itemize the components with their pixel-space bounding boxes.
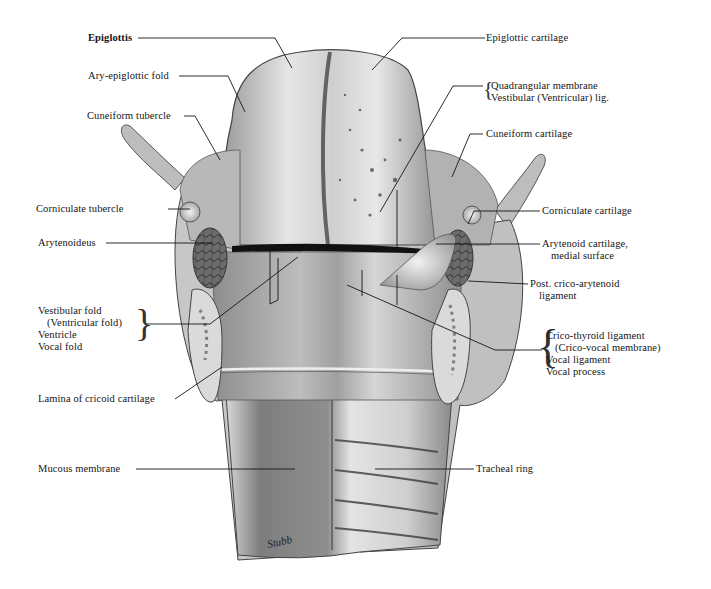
- label-arytenoid-cartilage: Arytenoid cartilage, medial surface: [542, 238, 628, 262]
- label-vestibular-fold-group: Vestibular fold (Ventricular fold) Ventr…: [38, 305, 122, 353]
- trachea: [226, 395, 452, 558]
- label-mucous-membrane: Mucous membrane: [38, 463, 120, 475]
- label-post-crico-arytenoid: Post. crico-arytenoid ligament: [530, 278, 620, 302]
- right-superior-horn: [495, 154, 545, 228]
- epiglottis: [223, 50, 442, 245]
- label-cuneiform-cartilage: Cuneiform cartilage: [486, 128, 572, 140]
- label-ary-epiglottic-fold: Ary-epiglottic fold: [88, 70, 169, 82]
- label-cuneiform-tubercle: Cuneiform tubercle: [87, 110, 171, 122]
- arytenoideus-muscle: [193, 228, 227, 288]
- left-superior-horn: [121, 125, 185, 190]
- label-tracheal-ring: Tracheal ring: [476, 463, 533, 475]
- label-lamina-cricoid: Lamina of cricoid cartilage: [38, 393, 155, 405]
- label-corniculate-cartilage: Corniculate cartilage: [542, 205, 632, 217]
- label-corniculate-tubercle: Corniculate tubercle: [36, 203, 123, 215]
- label-epiglottic-cartilage: Epiglottic cartilage: [486, 32, 568, 44]
- label-epiglottis: Epiglottis: [88, 32, 132, 44]
- label-quadrangular-group: Quadrangular membrane Vestibular (Ventri…: [491, 80, 609, 104]
- label-arytenoideus: Arytenoideus: [38, 237, 96, 249]
- brace-left: }: [135, 303, 153, 343]
- label-crico-thyroid-group: Crico-thyroid ligament (Crico-vocal memb…: [546, 330, 661, 378]
